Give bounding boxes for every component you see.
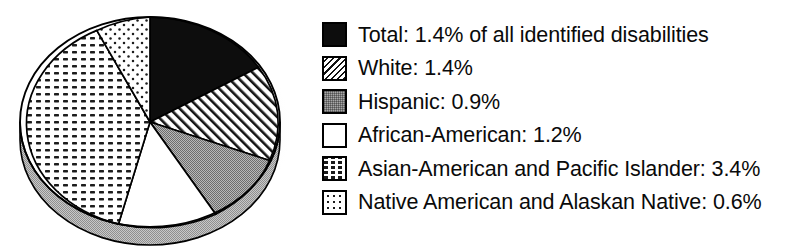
chart-legend: Total: 1.4% of all identified disabiliti… bbox=[322, 18, 800, 219]
legend-swatch-african-american-icon bbox=[322, 123, 347, 148]
legend-label-asian-american: Asian-American and Pacific Islander: 3.4… bbox=[358, 157, 760, 181]
legend-item-total[interactable]: Total: 1.4% of all identified disabiliti… bbox=[322, 18, 800, 52]
legend-item-native-american[interactable]: Native American and Alaskan Native: 0.6% bbox=[322, 186, 800, 220]
legend-label-total: Total: 1.4% of all identified disabiliti… bbox=[358, 23, 709, 47]
legend-label-african-american: African-American: 1.2% bbox=[358, 123, 582, 147]
legend-label-white: White: 1.4% bbox=[358, 56, 473, 80]
pie-chart-svg bbox=[0, 0, 310, 248]
pie-slices bbox=[26, 17, 278, 228]
legend-swatch-asian-american-icon bbox=[322, 156, 347, 181]
legend-label-native-american: Native American and Alaskan Native: 0.6% bbox=[358, 190, 762, 214]
pie-chart-figure: Total: 1.4% of all identified disabiliti… bbox=[0, 0, 804, 248]
pie-chart bbox=[0, 0, 310, 248]
legend-item-asian-american[interactable]: Asian-American and Pacific Islander: 3.4… bbox=[322, 152, 800, 186]
legend-swatch-white-icon bbox=[322, 56, 347, 81]
legend-swatch-total-icon bbox=[322, 22, 347, 47]
legend-item-white[interactable]: White: 1.4% bbox=[322, 52, 800, 86]
legend-swatch-native-american-icon bbox=[322, 190, 347, 215]
legend-item-african-american[interactable]: African-American: 1.2% bbox=[322, 119, 800, 153]
legend-label-hispanic: Hispanic: 0.9% bbox=[358, 90, 500, 114]
legend-swatch-hispanic-icon bbox=[322, 89, 347, 114]
legend-item-hispanic[interactable]: Hispanic: 0.9% bbox=[322, 85, 800, 119]
